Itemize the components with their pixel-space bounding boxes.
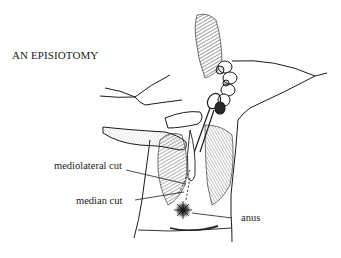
vaginal-opening [187, 130, 195, 181]
thigh-outline-right [232, 61, 327, 120]
figure-title: AN EPISIOTOMY [12, 50, 98, 61]
hand-fingers [103, 112, 202, 150]
label-median-cut: median cut [76, 196, 122, 207]
anatomical-drawing [0, 0, 341, 258]
label-mediolateral-cut: mediolateral cut [54, 161, 122, 172]
label-anus: anus [241, 213, 260, 224]
tissue-folds [216, 61, 237, 106]
left-contour [134, 140, 150, 238]
thigh-outline-left [100, 75, 182, 105]
median-incision [186, 178, 190, 200]
gluteal-fold [170, 228, 205, 230]
episiotomy-illustration: AN EPISIOTOMY mediolateral cut median cu… [0, 0, 341, 258]
leader-anus [192, 213, 232, 218]
labia-shading-right [205, 125, 233, 205]
